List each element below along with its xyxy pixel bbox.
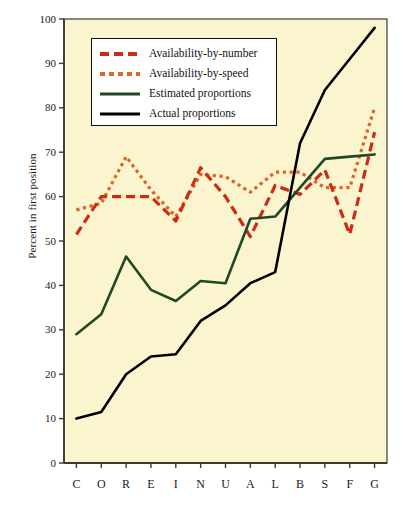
legend-swatch-availability-by-number xyxy=(99,48,141,60)
legend-swatch-availability-by-speed xyxy=(99,68,141,80)
legend-item: Availability-by-speed xyxy=(92,64,276,84)
legend-label-availability-by-number: Availability-by-number xyxy=(149,48,257,60)
legend-item: Availability-by-number xyxy=(92,44,276,64)
legend-item: Actual proportions xyxy=(92,104,276,124)
legend-item: Estimated proportions xyxy=(92,84,276,104)
legend-label-actual-proportions: Actual proportions xyxy=(149,108,236,120)
legend-label-availability-by-speed: Availability-by-speed xyxy=(149,68,248,80)
chart-legend: Availability-by-number Availability-by-s… xyxy=(91,38,277,126)
legend-swatch-actual-proportions xyxy=(99,108,141,120)
legend-swatch-estimated-proportions xyxy=(99,88,141,100)
legend-label-estimated-proportions: Estimated proportions xyxy=(149,88,251,100)
chart-figure: Percent in first position 10090807060504… xyxy=(0,0,403,514)
